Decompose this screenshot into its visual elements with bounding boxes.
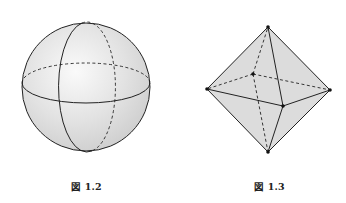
sphere-figure [22, 22, 150, 152]
vertex-bottom [266, 150, 270, 154]
octahedron-figure [205, 25, 332, 154]
octahedron-outline [207, 27, 330, 152]
sphere-outline [22, 23, 150, 151]
vertex-right [328, 88, 332, 92]
vertex-back [251, 72, 255, 76]
figure-caption-sphere: 図 1.2 [71, 179, 102, 193]
vertex-top [266, 25, 270, 29]
figure-canvas [0, 0, 346, 203]
figure-caption-octahedron: 図 1.3 [254, 179, 285, 193]
vertex-front [281, 104, 285, 108]
vertex-left [205, 87, 209, 91]
